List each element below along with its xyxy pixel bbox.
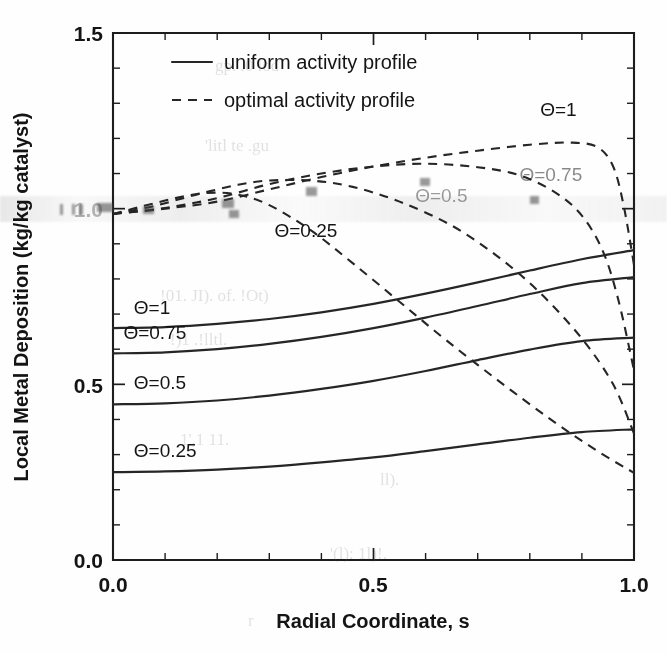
scan-ghost-text: !01. JI). of. !Ot) [160,286,269,306]
curve-label: Θ=0.75 [519,164,582,185]
scan-blot [306,187,317,196]
scan-blot [222,199,234,208]
scan-ghost-text: gp. .0 lod [215,56,279,76]
scan-ghost-text: '(l): 1l)!. [330,544,387,564]
scan-blot [530,196,539,204]
scan-ghost-text: r [248,611,254,631]
scan-blot [60,204,63,215]
x-tick-label-0-5: 0.5 [358,573,388,596]
x-axis-title: Radial Coordinate, s [276,610,469,632]
curve-label: Θ=0.5 [134,372,186,393]
scan-blot [143,206,154,214]
y-axis-title: Local Metal Deposition (kg/kg catalyst) [10,113,32,482]
curve-label: Θ=0.25 [275,220,338,241]
y-tick-label-0-5: 0.5 [74,374,104,397]
scan-ghost-text: 1',1 11. [180,430,229,450]
y-tick-label-1-5: 1.5 [74,22,104,45]
curve-label: Θ=1 [540,99,576,120]
curve-annotations: Θ=1Θ=0.75Θ=0.5Θ=0.25Θ=1Θ=0.75Θ=0.5Θ=0.25 [123,99,582,462]
data-curves [113,143,634,473]
legend: uniform activity profile optimal activit… [172,51,417,111]
scan-blot [72,204,75,215]
x-tick-label-1-0: 1.0 [619,573,648,596]
figure-canvas: uniform activity profile optimal activit… [0,0,667,653]
legend-label-optimal: optimal activity profile [224,89,415,111]
scan-blot [420,178,430,186]
scan-ghost-text: ll). [380,470,399,490]
scan-blot [229,210,239,218]
scan-blot [80,204,83,215]
x-tick-label-0-0: 0.0 [98,573,127,596]
y-tick-label-0-0: 0.0 [74,549,103,572]
scan-ghost-text: 'litl te .gu [205,136,269,156]
scan-ghost-text: !)1 .!lltl. [170,330,227,350]
scan-blot [97,203,113,212]
